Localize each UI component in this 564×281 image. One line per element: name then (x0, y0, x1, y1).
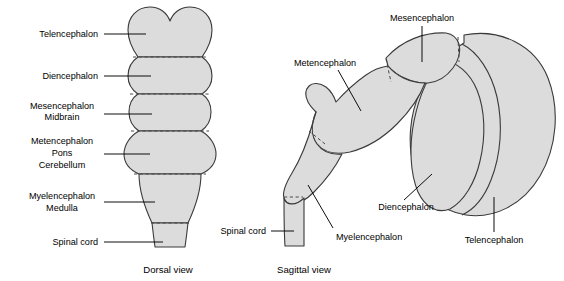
dorsal-view-group: Telencephalon Diencephalon Mesencephalon… (29, 7, 216, 275)
dorsal-label-spinal-cord: Spinal cord (53, 237, 99, 247)
dorsal-label-pons: Pons (52, 148, 73, 158)
dorsal-view-caption: Dorsal view (143, 264, 193, 275)
dorsal-diencephalon-shape (128, 57, 212, 94)
dorsal-label-diencephalon: Diencephalon (42, 71, 98, 81)
dorsal-label-metencephalon: Metencephalon (31, 136, 93, 146)
dorsal-label-mesencephalon: Mesencephalon (30, 101, 94, 111)
diagram-canvas: Telencephalon Diencephalon Mesencephalon… (0, 0, 564, 281)
sagittal-label-myelencephalon: Myelencephalon (336, 232, 402, 242)
dorsal-mesencephalon-shape (129, 94, 211, 131)
sagittal-label-telencephalon: Telencephalon (465, 235, 524, 245)
sagittal-view-group: Mesencephalon Metencephalon Spinal cord … (221, 13, 556, 275)
sagittal-metencephalon-shape (306, 66, 425, 153)
dorsal-label-myelencephalon: Myelencephalon (29, 191, 95, 201)
sagittal-label-spinal-cord: Spinal cord (221, 226, 267, 236)
dorsal-label-medulla: Medulla (46, 203, 79, 213)
sagittal-view-caption: Sagittal view (277, 264, 331, 275)
dorsal-label-midbrain: Midbrain (45, 112, 80, 122)
dorsal-spinal-cord-shape (152, 223, 188, 247)
sagittal-label-mesencephalon: Mesencephalon (390, 13, 454, 23)
dorsal-myelencephalon-shape (139, 174, 201, 223)
sagittal-label-metencephalon: Metencephalon (294, 58, 356, 68)
sagittal-spinal-cord-shape (284, 198, 304, 246)
dorsal-metencephalon-shape (124, 131, 216, 174)
dorsal-label-cerebellum: Cerebellum (39, 160, 86, 170)
sagittal-label-diencephalon: Diencephalon (378, 202, 434, 212)
brain-anatomy-figure: Telencephalon Diencephalon Mesencephalon… (0, 0, 564, 281)
sagittal-leader-myelencephalon (308, 185, 333, 228)
dorsal-telencephalon-body (128, 7, 212, 57)
dorsal-label-telencephalon: Telencephalon (39, 29, 98, 39)
